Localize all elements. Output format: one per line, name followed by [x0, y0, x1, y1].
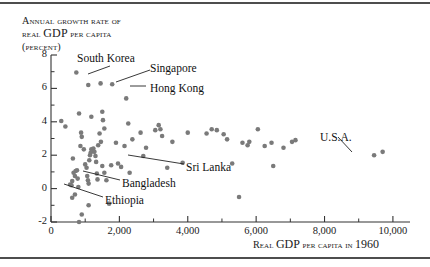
y-tick-label: 2	[35, 148, 47, 159]
data-point	[92, 150, 97, 155]
annotation-leader-line	[64, 184, 103, 197]
data-point	[75, 168, 80, 173]
x-tick-label: 8,000	[303, 225, 347, 236]
data-point	[84, 165, 89, 170]
data-point	[77, 111, 82, 116]
data-point	[99, 140, 104, 145]
data-point	[93, 154, 98, 159]
x-tick-label: 6,000	[234, 225, 278, 236]
data-point	[204, 131, 209, 136]
annotation-leader-line	[128, 155, 184, 164]
data-point	[71, 156, 76, 161]
data-point	[144, 145, 149, 150]
data-point	[89, 114, 94, 119]
data-point	[85, 174, 90, 179]
y-tick-label: 6	[35, 81, 47, 92]
data-point	[372, 153, 377, 158]
data-point	[221, 132, 226, 137]
y-tick-label: 4	[35, 115, 47, 126]
data-point	[215, 128, 220, 133]
data-point	[153, 128, 158, 133]
data-point	[138, 130, 143, 135]
data-point	[86, 83, 91, 88]
data-point	[209, 127, 214, 132]
y-tick-label: 8	[35, 48, 47, 59]
data-point	[127, 170, 132, 175]
data-point	[63, 124, 68, 129]
data-point	[77, 220, 82, 225]
data-point	[82, 147, 87, 152]
x-tick-label: 4,000	[166, 225, 210, 236]
data-point	[185, 130, 190, 135]
data-point	[256, 127, 261, 132]
data-point	[262, 144, 267, 149]
data-point	[114, 140, 119, 145]
data-point	[102, 170, 107, 175]
data-point	[59, 119, 64, 124]
data-point	[119, 165, 124, 170]
data-point	[237, 195, 242, 200]
data-point	[225, 137, 230, 142]
data-point	[122, 144, 127, 149]
data-point	[126, 121, 131, 126]
data-point	[94, 160, 99, 165]
y-tick-label: 0	[35, 182, 47, 193]
annotation-leader-lines	[64, 66, 352, 197]
data-point	[240, 140, 245, 145]
data-point	[70, 195, 75, 200]
annotation-label: Hong Kong	[150, 82, 204, 94]
annotation-leader-line	[116, 70, 150, 82]
data-point	[87, 158, 92, 163]
data-point	[79, 135, 84, 140]
data-point	[130, 137, 135, 142]
data-point	[158, 127, 163, 132]
data-point	[170, 140, 175, 145]
x-tick-label: 2,000	[97, 225, 141, 236]
data-point	[180, 160, 185, 165]
figure-container: Annual growth rate of real GDP per capit…	[0, 0, 430, 267]
x-tick-label: 0	[29, 225, 73, 236]
data-point	[95, 177, 100, 182]
data-point	[79, 130, 84, 135]
x-tick-label: 10,000	[371, 225, 415, 236]
data-point	[86, 181, 91, 186]
data-point	[97, 131, 102, 136]
data-point	[101, 118, 106, 123]
data-point	[160, 134, 165, 139]
data-point	[100, 164, 105, 169]
annotation-label: Singapore	[150, 62, 197, 74]
data-point	[271, 164, 276, 169]
data-point	[104, 178, 109, 183]
data-point	[75, 176, 80, 181]
data-point	[380, 150, 385, 155]
data-point	[156, 123, 161, 128]
data-point	[79, 212, 84, 217]
data-point	[98, 81, 103, 86]
data-point	[102, 126, 107, 131]
annotation-leader-line	[88, 66, 110, 74]
data-point	[74, 70, 79, 75]
annotation-label: Sri Lanka	[186, 161, 231, 173]
annotation-label: U.S.A.	[320, 131, 352, 143]
data-point	[293, 138, 298, 143]
data-point	[100, 109, 105, 114]
data-point	[109, 163, 114, 168]
data-point	[86, 203, 91, 208]
data-point	[110, 82, 115, 87]
data-point	[269, 140, 274, 145]
data-point	[247, 140, 252, 145]
annotation-label: Bangladesh	[122, 177, 176, 189]
data-point	[281, 145, 286, 150]
data-point	[124, 96, 129, 101]
annotation-label: Ethiopia	[105, 194, 144, 206]
data-point	[165, 165, 170, 170]
annotation-label: South Korea	[77, 52, 135, 64]
data-point	[78, 144, 83, 149]
